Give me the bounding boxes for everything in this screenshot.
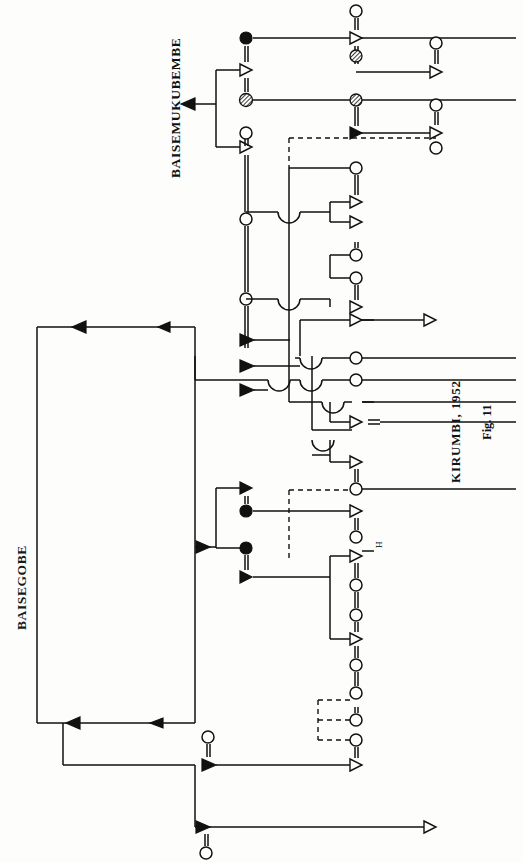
figure-number: Fig. 11 (480, 405, 495, 440)
node-annotation-h: H (374, 542, 384, 549)
trunk-spine (37, 327, 195, 827)
clan-label-baisemukubembe: BAISEMUKUBEMBE (168, 38, 184, 178)
figure-page: .ln { stroke:#111; stroke-width:1.5; fil… (0, 0, 523, 862)
group-baisemukubembe (181, 32, 516, 348)
figure-caption: KIRUMBI, 1952 (448, 380, 464, 483)
clan-label-baisegobe: BAISEGOBE (14, 545, 30, 630)
group-baisegobe (195, 482, 374, 771)
cluster-middle (246, 162, 436, 356)
cluster-top-right (289, 5, 442, 168)
cluster-bottom (195, 731, 436, 859)
genealogy-diagram: .ln { stroke:#111; stroke-width:1.5; fil… (0, 0, 523, 862)
